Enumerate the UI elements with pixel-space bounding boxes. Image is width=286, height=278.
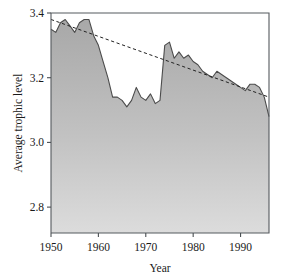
y-tick-label: 2.8	[30, 201, 45, 213]
y-axis-title: Average trophic level	[12, 74, 25, 173]
x-tick-label: 1950	[40, 241, 63, 253]
y-tick-label: 3.2	[30, 72, 45, 84]
y-axis-tick-marks	[47, 13, 51, 207]
x-axis-title: Year	[149, 262, 170, 274]
y-tick-label: 3.4	[30, 7, 45, 19]
chart-canvas: 2.83.03.23.4 19501960197019801990 Year A…	[0, 0, 286, 278]
y-axis-tick-labels: 2.83.03.23.4	[30, 7, 45, 213]
y-tick-label: 3.0	[30, 136, 45, 148]
x-tick-label: 1960	[87, 241, 110, 253]
trophic-level-chart-figure: 2.83.03.23.4 19501960197019801990 Year A…	[0, 0, 286, 278]
series-area-fill	[51, 19, 269, 233]
x-axis-tick-marks	[51, 233, 241, 237]
x-axis-tick-labels: 19501960197019801990	[40, 241, 253, 253]
x-tick-label: 1980	[182, 241, 205, 253]
x-tick-label: 1990	[229, 241, 252, 253]
x-tick-label: 1970	[134, 241, 157, 253]
